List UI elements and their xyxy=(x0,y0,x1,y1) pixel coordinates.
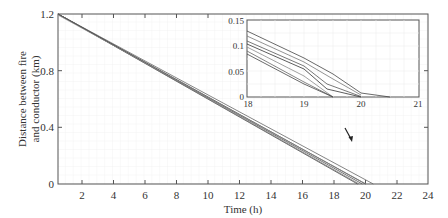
x-axis-label: Time (h) xyxy=(224,203,263,216)
svg-text:18: 18 xyxy=(244,99,254,109)
svg-text:20: 20 xyxy=(360,189,372,201)
svg-text:24: 24 xyxy=(423,189,435,201)
svg-text:19: 19 xyxy=(300,99,310,109)
svg-text:0: 0 xyxy=(49,178,55,190)
svg-text:10: 10 xyxy=(203,189,215,201)
svg-text:8: 8 xyxy=(174,189,180,201)
chart: 1.2 0.8 0.4 0 246 81012 141618 202224 Ti… xyxy=(0,0,448,218)
svg-text:18: 18 xyxy=(329,189,341,201)
svg-text:1.2: 1.2 xyxy=(40,8,54,20)
svg-text:Distance between fire: Distance between fire xyxy=(16,51,28,147)
svg-text:20: 20 xyxy=(357,99,367,109)
y-axis: 1.2 0.8 0.4 0 xyxy=(40,8,54,190)
svg-text:0.05: 0.05 xyxy=(228,67,244,77)
svg-text:21: 21 xyxy=(414,99,423,109)
svg-text:12: 12 xyxy=(234,189,245,201)
y-axis-label: Distance between fire and conductor (km) xyxy=(16,51,42,147)
svg-text:0.4: 0.4 xyxy=(40,121,54,133)
svg-text:6: 6 xyxy=(142,189,148,201)
svg-text:16: 16 xyxy=(297,189,309,201)
x-axis: 246 81012 141618 202224 xyxy=(79,189,434,201)
svg-text:4: 4 xyxy=(111,189,117,201)
svg-text:0.8: 0.8 xyxy=(40,65,54,77)
svg-text:0.1: 0.1 xyxy=(233,41,244,51)
svg-text:and conductor (km): and conductor (km) xyxy=(29,55,42,142)
svg-text:2: 2 xyxy=(79,189,85,201)
svg-text:22: 22 xyxy=(392,189,403,201)
svg-text:14: 14 xyxy=(266,189,278,201)
inset-chart: 0.15 0.1 0.05 0 1819 2021 xyxy=(228,16,422,109)
svg-text:0.15: 0.15 xyxy=(228,16,244,26)
